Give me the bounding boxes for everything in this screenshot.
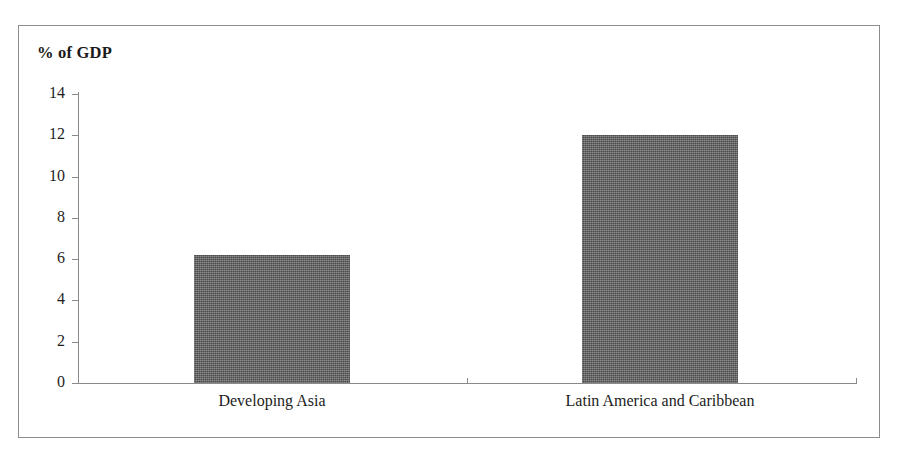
x-axis-category-label: Developing Asia bbox=[218, 392, 325, 410]
y-axis-tick-label: 4 bbox=[57, 290, 65, 308]
x-axis-tick-mid bbox=[467, 378, 468, 384]
y-axis-tick-label: 10 bbox=[49, 167, 65, 185]
y-axis-tick-label: 6 bbox=[57, 249, 65, 267]
y-axis-tick-mark bbox=[72, 94, 78, 95]
y-axis-tick: 4 bbox=[72, 300, 78, 301]
y-axis-tick-mark bbox=[72, 259, 78, 260]
y-axis-line bbox=[78, 92, 79, 384]
y-axis-tick-label: 12 bbox=[49, 125, 65, 143]
y-axis-tick-label: 8 bbox=[57, 208, 65, 226]
bar bbox=[194, 255, 350, 383]
chart-frame: % of GDP 02468101214 Developing AsiaLati… bbox=[18, 25, 880, 438]
y-axis-tick: 2 bbox=[72, 342, 78, 343]
y-axis-tick-mark bbox=[72, 177, 78, 178]
y-axis-tick-label: 0 bbox=[57, 373, 65, 391]
y-axis-tick: 14 bbox=[72, 94, 78, 95]
y-axis-tick: 10 bbox=[72, 177, 78, 178]
x-axis-category-label: Latin America and Caribbean bbox=[566, 392, 755, 410]
x-axis-tick-end bbox=[856, 378, 857, 384]
x-axis-tick-start bbox=[78, 378, 79, 384]
y-axis-tick: 8 bbox=[72, 218, 78, 219]
plot-area: 02468101214 Developing AsiaLatin America… bbox=[19, 26, 881, 439]
y-axis-tick-label: 2 bbox=[57, 332, 65, 350]
y-axis-tick: 12 bbox=[72, 135, 78, 136]
y-axis-tick-label: 14 bbox=[49, 84, 65, 102]
y-axis-tick-mark bbox=[72, 135, 78, 136]
y-axis-tick-mark bbox=[72, 300, 78, 301]
y-axis-tick-mark bbox=[72, 218, 78, 219]
y-axis-tick: 6 bbox=[72, 259, 78, 260]
bar bbox=[582, 135, 738, 383]
y-axis-tick-mark bbox=[72, 342, 78, 343]
